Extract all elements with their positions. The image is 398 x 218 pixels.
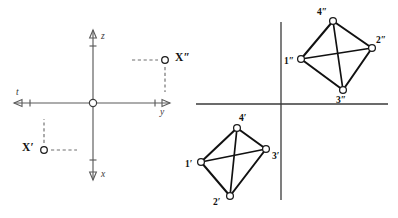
point-marker-X1 (41, 147, 48, 154)
edge-4d-3d (237, 128, 266, 149)
axis-label-x: x (101, 170, 105, 180)
origin-marker (89, 99, 96, 106)
vertex-label-3d: 3′ (272, 152, 279, 162)
edge-4dd-2dd (333, 21, 372, 48)
point-label-X1: X′ (22, 142, 34, 154)
vertex-marker-4d (234, 125, 241, 132)
edge-2d-1d (201, 162, 230, 196)
left-axes-group (14, 30, 170, 180)
upper-quadrilateral-group (298, 18, 376, 94)
lower-quadrilateral-group (198, 125, 270, 200)
vertex-marker-3dd (340, 87, 347, 94)
vertex-marker-1d (198, 159, 205, 166)
vertex-label-3dd: 3″ (336, 96, 346, 106)
vertex-label-1dd: 1″ (284, 57, 294, 67)
point-label-X2: X″ (175, 52, 190, 64)
point-marker-X2 (162, 57, 169, 64)
diagram-svg (0, 0, 398, 218)
vertex-marker-2d (227, 193, 234, 200)
axis-label-y: y (160, 108, 164, 118)
axis-label-t: t (16, 88, 19, 98)
axis-label-z: z (101, 32, 105, 42)
vertex-label-2d: 2′ (213, 198, 220, 208)
edge-2dd-3dd (343, 48, 372, 90)
vertex-marker-4dd (330, 18, 337, 25)
right-axes-group (196, 22, 388, 200)
edge-1dd-4dd (301, 21, 333, 59)
vertex-marker-2dd (369, 45, 376, 52)
vertex-marker-1dd (298, 56, 305, 63)
vertex-label-4dd: 4″ (317, 8, 327, 18)
vertex-marker-3d (263, 146, 270, 153)
edge-1d-4d (201, 128, 237, 162)
edge-3d-2d (230, 149, 266, 196)
point-X2-group (132, 57, 168, 92)
point-X1-group (41, 119, 77, 153)
vertex-label-2dd: 2″ (376, 36, 386, 46)
figure-canvas: t y z x X″ X′ 1″ 2″ 3″ 4″ 1′ 2′ 3′ 4′ (0, 0, 398, 218)
vertex-label-1d: 1′ (185, 160, 192, 170)
diagonal-4dd-3dd (333, 21, 343, 90)
vertex-label-4d: 4′ (239, 114, 246, 124)
edge-3dd-1dd (301, 59, 343, 90)
diagonal-4d-2d (230, 128, 237, 196)
